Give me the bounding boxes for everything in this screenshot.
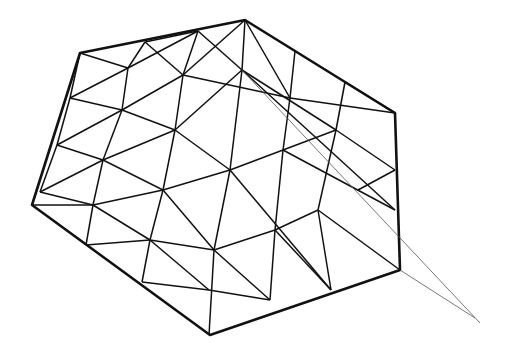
strut-line xyxy=(175,70,242,130)
strut-line xyxy=(57,110,122,145)
strut-line xyxy=(40,192,93,205)
kite-string xyxy=(400,270,475,318)
strut-line xyxy=(145,31,198,42)
strut-line xyxy=(270,230,275,300)
strut-line xyxy=(142,240,150,282)
strut-line xyxy=(163,130,175,190)
strut-line xyxy=(122,110,175,130)
strut-line xyxy=(214,230,275,250)
strut-line xyxy=(214,170,230,250)
strut-line xyxy=(275,210,318,230)
strut-line xyxy=(57,145,103,160)
strut-line xyxy=(198,31,242,70)
strut-line xyxy=(122,75,183,110)
strut-line xyxy=(145,42,183,75)
strut-line xyxy=(175,130,230,170)
strut-line xyxy=(122,68,128,110)
strut-line xyxy=(93,160,103,205)
strut-line xyxy=(80,53,128,68)
strut-line xyxy=(86,205,93,245)
strut-line xyxy=(318,210,400,270)
strut-line xyxy=(103,160,163,190)
strut-line xyxy=(358,170,395,190)
strut-line xyxy=(242,70,336,130)
strut-line xyxy=(93,205,150,240)
strut-line xyxy=(183,75,290,98)
strut-line xyxy=(230,170,331,290)
strut-line xyxy=(242,70,395,210)
strut-line xyxy=(86,240,150,245)
strut-line xyxy=(175,75,183,130)
kite-outline xyxy=(32,20,400,335)
strut-line xyxy=(163,190,214,250)
strut-line xyxy=(150,190,163,240)
strut-line xyxy=(290,51,295,98)
kite-drawing xyxy=(0,0,509,358)
strut-line xyxy=(70,68,128,98)
strut-line xyxy=(209,250,214,335)
strut-line xyxy=(283,130,336,150)
strut-line xyxy=(242,20,245,70)
strut-line xyxy=(275,150,283,230)
strut-line xyxy=(70,98,122,110)
strut-line xyxy=(230,150,283,170)
strut-line xyxy=(103,130,175,160)
strut-line xyxy=(283,98,290,150)
strut-line xyxy=(142,282,209,290)
strut-line xyxy=(163,170,230,190)
strut-line xyxy=(93,190,163,205)
